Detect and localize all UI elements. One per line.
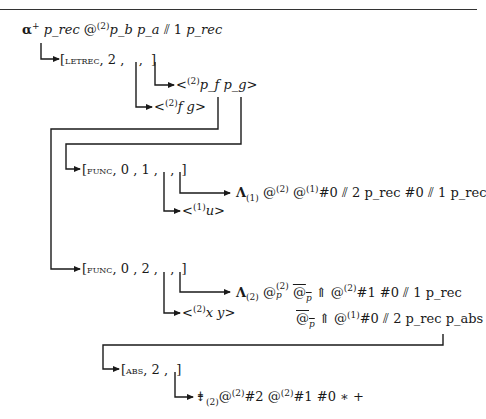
func2-node: [func, 0 , 2 , , ] [82,261,187,277]
edge-root-letrec [41,43,59,59]
root-term: α+ p_rec @(2)p_b p_a ⫽ 1 p_rec [22,22,222,38]
func1-body: Λ(1) @(2) @(1)#0 ⫽ 2 p_rec #0 ⫽ 1 p_rec [236,185,486,201]
func2-params-tuple: <(2)x y> [182,305,235,321]
edge-letrec-body [155,62,174,85]
edge-letrec-names [136,62,152,107]
edge-func2-body [180,272,230,292]
edge-pf-func2 [51,97,218,269]
edge-func2-params [164,272,180,313]
func1-node: [func, 0 , 1 , , ] [82,162,187,178]
letrec-names-tuple: <(2)f g> [154,99,206,115]
letrec-body-tuple: <(2)p_f p_g> [176,77,257,93]
edge-func1-body [180,172,230,193]
letrec-keyword: letrec [65,53,99,67]
func2-body-line2: @p ⇑ @(1)#0 ⫽ 2 p_rec p_abs [296,311,483,327]
letrec-node: [letrec, 2 , , ] [60,52,156,68]
func1-params-tuple: <(1)u> [182,203,225,219]
func2-body-line1: Λ(2) @(2)p @p ⇑ @(2)#1 #0 ⫽ 1 p_rec [236,284,462,302]
abs-body: ⇟(2)@(2)#2 @(2)#1 #0 ∗ + [195,389,364,405]
apply-symbol: @ [84,22,97,37]
abs-node: [abs, 2 , ] [121,362,181,378]
alpha-symbol: α [22,22,32,37]
